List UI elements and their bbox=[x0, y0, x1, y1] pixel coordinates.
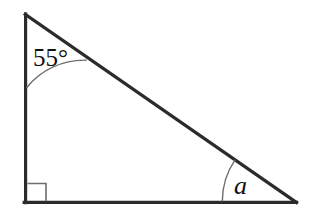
geometry-figure: 55° a bbox=[0, 0, 310, 218]
triangle-svg: 55° a bbox=[0, 0, 310, 218]
unknown-angle-label: a bbox=[234, 171, 247, 200]
right-angle-marker bbox=[28, 184, 47, 202]
apex-angle-label: 55° bbox=[33, 44, 68, 71]
triangle-hypotenuse bbox=[25, 14, 296, 202]
